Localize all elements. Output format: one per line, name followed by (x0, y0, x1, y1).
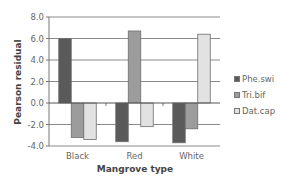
y-tick-label: 2.0 (30, 77, 44, 87)
x-tick-label: Red (126, 151, 142, 161)
bars (59, 31, 211, 143)
bar-phe-swi-white (173, 103, 186, 143)
bar-dat-cap-white (198, 34, 211, 103)
x-axis-title: Mangrove type (97, 164, 173, 174)
bar-tri-bif-red (128, 31, 141, 103)
y-axis-title: Pearson residual (13, 39, 23, 124)
bar-tri-bif-black (71, 103, 84, 137)
y-tick-label: 8.0 (30, 12, 44, 22)
y-tick-labels: 8.06.04.02.00.0-2.0-4.0 (27, 12, 44, 151)
legend-swatch-icon (234, 92, 240, 98)
legend-swatch-icon (234, 108, 240, 114)
legend-swatch-icon (234, 76, 240, 82)
x-tick-labels: BlackRedWhite (66, 151, 204, 161)
bar-phe-swi-red (116, 103, 129, 142)
y-tick-label: -2.0 (27, 120, 44, 130)
y-tick-label: -4.0 (27, 141, 44, 151)
legend-item-phe-swi: Phe.swi (234, 71, 275, 87)
legend-item-tri-bif: Tri.bif (234, 87, 275, 103)
legend-label: Tri.bif (242, 90, 265, 100)
bar-phe-swi-black (59, 39, 72, 104)
legend-label: Dat.cap (242, 106, 275, 116)
x-tick-label: Black (66, 151, 89, 161)
bar-dat-cap-black (84, 103, 97, 140)
legend: Phe.swi Tri.bif Dat.cap (234, 71, 275, 119)
bar-dat-cap-red (141, 103, 154, 127)
y-tick-label: 6.0 (30, 34, 44, 44)
x-tick-label: White (179, 151, 204, 161)
bar-tri-bif-white (185, 103, 198, 129)
y-tick-label: 4.0 (30, 55, 44, 65)
legend-item-dat-cap: Dat.cap (234, 103, 275, 119)
y-tick-label: 0.0 (30, 98, 44, 108)
legend-label: Phe.swi (242, 74, 274, 84)
